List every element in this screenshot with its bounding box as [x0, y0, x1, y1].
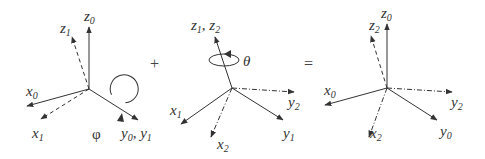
label-y2: y2	[288, 95, 300, 112]
label-theta: θ	[243, 54, 250, 69]
y1-axis	[232, 88, 283, 120]
label-z2: z2	[369, 18, 380, 35]
z1-axis	[72, 37, 89, 89]
y0-axis	[387, 88, 437, 120]
x1-axis	[41, 89, 89, 119]
x1-axis	[181, 88, 232, 124]
label-z1-z2: z1, z2	[191, 18, 220, 35]
label-y1: y1	[283, 126, 295, 143]
y0-y1-axis	[89, 89, 138, 120]
y2-axis	[232, 88, 294, 92]
label-y2: y2	[451, 95, 463, 112]
label-x1: x1	[32, 126, 44, 143]
axes-drawing	[0, 0, 485, 159]
label-x0: x0	[324, 83, 336, 100]
label-y0-y1: y0, y1	[121, 126, 152, 143]
phi-arrow-head	[117, 113, 124, 122]
label-x2: x2	[370, 126, 382, 143]
label-x1: x1	[170, 103, 182, 120]
panel-1-axes	[27, 27, 143, 122]
label-z0: z0	[381, 6, 392, 23]
label-phi: φ	[92, 127, 101, 142]
plus-operator: +	[150, 56, 159, 72]
label-z1: z1	[60, 21, 71, 38]
panel-2-axes	[181, 37, 294, 137]
equals-operator: =	[304, 56, 313, 72]
z2-axis	[371, 36, 387, 88]
label-z0: z0	[84, 9, 95, 26]
rotation-composition-figure: z0 z1 x0 x1 φ y0, y1 + z1, z2 θ x1 x2 y2…	[0, 0, 485, 159]
label-x0: x0	[26, 84, 38, 101]
panel-3-axes	[325, 24, 452, 137]
theta-arrow-head	[224, 50, 231, 58]
label-y0: y0	[440, 124, 452, 141]
label-x2: x2	[217, 137, 229, 154]
z1-z2-axis	[215, 37, 232, 88]
phi-rotation-arrow	[106, 70, 143, 106]
y2-axis	[387, 88, 452, 92]
